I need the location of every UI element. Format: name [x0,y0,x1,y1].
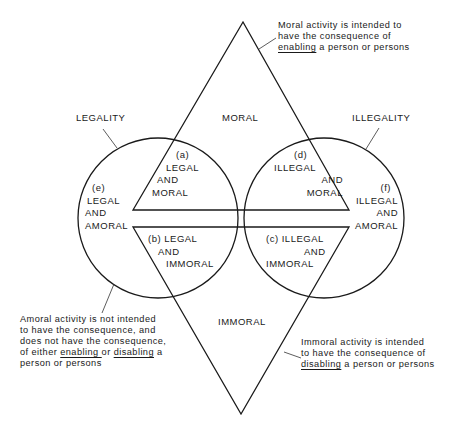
amoral-note-enabling: enabling [60,347,98,357]
amoral-note-line5-pre: person or [20,358,66,368]
region-d-line1: ILLEGAL [274,162,344,175]
region-f-tag: (f) [346,182,398,195]
region-f-line3: AMORAL [346,220,398,233]
region-c-line1: (c) ILLEGAL [266,233,326,246]
moral-note-enabling: enabling [278,42,316,52]
region-e-line1: LEGAL [85,195,128,208]
amoral-note-line4-mid: or [99,347,114,357]
immoral-note-disabling: disabling [301,359,341,369]
region-d-tag: (d) [274,149,344,162]
amoral-note-line4-post: a [154,347,163,357]
amoral-note-disabling: disabling [114,347,154,357]
moral-note: Moral activity is intended to have the c… [278,20,410,53]
amoral-note-persons: persons [66,358,102,368]
region-a-line2: AND [150,174,199,187]
moral-label: MORAL [222,112,258,125]
amoral-note-line2: to have the consequence, and [20,325,166,336]
region-d-line3: MORAL [274,187,344,200]
legality-leader-line [103,129,117,148]
region-b-tag: (b) [148,233,161,244]
region-c-label: (c) ILLEGAL AND IMMORAL [266,233,326,271]
amoral-note-leader-line [102,284,114,313]
amoral-note-line5: person or persons [20,358,166,369]
illegality-label: ILLEGALITY [352,112,410,125]
region-c-illegal: ILLEGAL [282,233,324,244]
region-c-line2: AND [266,246,326,259]
region-e-label: (e) LEGAL AND AMORAL [85,182,128,232]
amoral-note-line4: of either enabling or disabling a [20,347,166,358]
region-b-line1: (b) LEGAL [148,233,214,246]
region-e-line2: AND [85,207,128,220]
region-a-line1: LEGAL [150,162,199,175]
amoral-note: Amoral activity is not intended to have … [20,314,166,369]
region-e-line3: AMORAL [85,220,128,233]
immoral-note-line1: Immoral activity is intended [301,337,435,348]
immoral-note: Immoral activity is intended to have the… [301,337,435,370]
immoral-note-line2: to have the consequence of [301,348,435,359]
immoral-label: IMMORAL [218,316,266,329]
region-a-label: (a) LEGAL AND MORAL [150,149,199,199]
amoral-note-line1: Amoral activity is not intended [20,314,166,325]
moral-note-leader-line [259,38,276,49]
immoral-note-leader-line [284,352,301,358]
amoral-note-line3: does not have the consequence, [20,336,166,347]
region-f-line2: AND [346,207,398,220]
amoral-note-line4-pre: of either [20,347,60,357]
moral-note-line1: Moral activity is intended to [278,20,410,31]
immoral-note-line3-rest: a person or persons [341,359,434,369]
moral-note-line3: enabling a person or persons [278,42,410,53]
diagram-shapes [0,0,474,437]
region-c-tag: (c) [266,233,279,244]
immoral-note-line3: disabling a person or persons [301,359,435,370]
legality-label: LEGALITY [76,112,125,125]
region-b-line2: AND [148,246,214,259]
region-f-label: (f) ILLEGAL AND AMORAL [346,182,398,232]
region-d-label: (d) ILLEGAL AND MORAL [274,149,344,199]
region-c-line3: IMMORAL [266,258,326,271]
region-d-line2: AND [274,174,344,187]
region-a-line3: MORAL [150,187,199,200]
region-b-label: (b) LEGAL AND IMMORAL [148,233,214,271]
region-b-line3: IMMORAL [148,258,214,271]
moral-note-line3-rest: a person or persons [316,42,409,52]
moral-note-line2: have the consequence of [278,31,410,42]
region-e-tag: (e) [85,182,128,195]
region-b-legal: LEGAL [164,233,197,244]
region-f-line1: ILLEGAL [346,195,398,208]
illegality-leader-line [366,128,379,149]
region-a-tag: (a) [150,149,199,162]
